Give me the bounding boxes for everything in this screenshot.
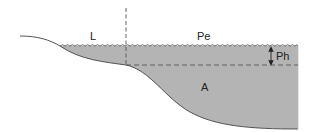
label-photic-depth: Ph — [276, 50, 289, 62]
label-aphotic: A — [201, 81, 209, 93]
water-body — [60, 46, 298, 129]
label-littoral: L — [90, 30, 96, 42]
label-pelagic: Pe — [197, 30, 210, 42]
water-surface-wave — [60, 45, 298, 46]
lake-zonation-diagram: L Pe Ph A — [0, 0, 316, 132]
